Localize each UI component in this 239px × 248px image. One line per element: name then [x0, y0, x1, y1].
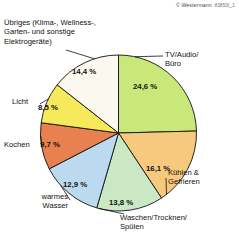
slice-label-tv-audio-buero: TV/Audio/Büro — [165, 50, 198, 69]
slice-label-licht: Licht — [12, 97, 28, 106]
slice-label-tv-line1: TV/Audio/ — [165, 50, 198, 59]
slice-label-kuehlen-gefrieren: Kühlen &Gefrieren — [168, 168, 200, 187]
slice-label-tv-line2: Büro — [165, 59, 181, 68]
leader-line-tv — [135, 56, 163, 57]
slice-label-ubriges-line1: Übriges (Klima-, Wellness-, — [4, 18, 96, 27]
slice-value-waschen-trocknen-spuelen: 13,8 % — [109, 198, 133, 207]
slice-label-ubriges-line3: Elektrogeräte) — [4, 37, 52, 46]
leader-line-kuehlen — [166, 178, 167, 195]
slice-label-ubriges: Übriges (Klima-, Wellness-,Garten- und s… — [4, 18, 96, 46]
slice-value-licht: 8,5 % — [38, 103, 58, 112]
slice-value-kuehlen-gefrieren: 16,1 % — [146, 164, 170, 173]
slice-value-kochen: 9,7 % — [40, 140, 60, 149]
slice-label-warmes-wasser: warmesWasser — [6, 192, 68, 211]
slice-value-ubriges: 14,4 % — [72, 67, 96, 76]
slice-label-kochen: Kochen — [4, 140, 30, 149]
slice-label-kuehlen-line2: Gefrieren — [168, 177, 200, 186]
slice-label-kuehlen-line1: Kühlen & — [168, 168, 199, 177]
slice-label-waschen-line1: Waschen/Trocknen/ — [120, 213, 187, 222]
leader-line-ubriges — [66, 50, 94, 59]
slice-label-wasser-line2: Wasser — [43, 201, 68, 210]
slice-label-waschen-line2: Spülen — [120, 222, 144, 231]
slice-value-tv-audio-buero: 24,6 % — [133, 82, 157, 91]
slice-value-warmes-wasser: 12,9 % — [63, 180, 87, 189]
slice-label-waschen-trocknen-spuelen: Waschen/Trocknen/Spülen — [120, 213, 187, 232]
slice-label-ubriges-line2: Garten- und sonstige — [4, 27, 75, 36]
slice-label-wasser-line1: warmes — [41, 192, 68, 201]
chart-canvas: © Westermann83850(_1 Übriges (Klima-, We… — [0, 0, 239, 248]
